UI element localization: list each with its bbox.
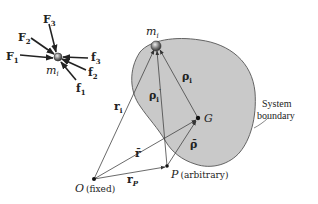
label-f1: f1 [76,82,86,97]
label-system-boundary-line2: boundary [257,110,295,121]
particle-mi-icon [151,41,161,51]
label-particle-mass: mi [46,64,59,78]
label-ref-point: P(arbitrary) [170,168,228,181]
label-f3: f3 [91,51,101,66]
label-rho-bar: ρ̄ [190,138,197,151]
point-O-icon [92,177,96,181]
point-G-icon [196,116,200,120]
label-r-i: ri [114,100,123,115]
force-arrow-F1 [20,55,53,58]
label-mi: mi [146,25,159,40]
label-system-boundary-line1: System [262,98,292,109]
kinetics-system-diagram: F1 F2 F3 mi f3 f2 f1 System boundary mi … [0,0,318,204]
label-r-bar: r̄ [135,147,141,160]
force-arrow-f3 [63,57,88,58]
force-arrow-F3 [49,24,56,52]
label-G: G [204,112,213,125]
vector-r-i [94,50,154,179]
free-body-diagram: F1 F2 F3 mi f3 f2 f1 [6,13,101,97]
point-P-icon [165,164,169,168]
label-r-P: rP [127,173,139,188]
label-F1: F1 [6,50,19,65]
force-arrow-F2 [31,38,54,54]
label-F2: F2 [18,31,31,46]
label-f2: f2 [88,66,98,81]
label-origin: O(fixed) [75,182,115,195]
particle-mass-icon [54,53,62,61]
label-F3: F3 [43,13,56,28]
